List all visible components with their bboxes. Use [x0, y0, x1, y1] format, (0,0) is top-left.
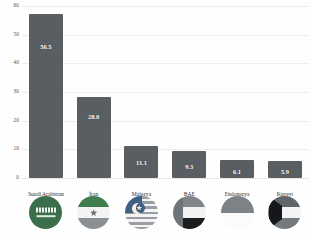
band-red [77, 218, 110, 229]
y-tick-label: 60 [14, 3, 19, 8]
x-axis-labels: Suudi Arabistan İran Malezya BAE Endonez… [22, 182, 309, 194]
shahada-script-mark [36, 207, 56, 212]
y-tick-label: 20 [14, 118, 19, 123]
y-tick-label: 10 [14, 147, 19, 152]
band-red [221, 196, 254, 213]
bar-slot-iran: 28.0 [70, 0, 118, 190]
bar-value-label: 5.9 [281, 169, 289, 175]
flag-malaysia-icon [125, 196, 158, 229]
flag-slot-malezya [118, 196, 166, 229]
bar-chart-figure: 60 50 40 30 20 10 0 56.5 2 [0, 0, 311, 233]
crescent-mark [132, 203, 143, 214]
bar-value-label: 9.3 [185, 164, 193, 170]
bar-iran[interactable] [77, 97, 111, 178]
flag-kuwait-icon [268, 196, 301, 229]
sword-mark [36, 216, 55, 218]
bar-slot-endonezya: 6.1 [213, 0, 261, 190]
bar-suudi-arabistan[interactable] [29, 14, 63, 178]
band-green [77, 196, 110, 207]
flag-row [22, 194, 309, 233]
band-black [183, 218, 206, 229]
y-tick-label: 50 [14, 32, 19, 37]
flag-slot-bae [165, 196, 213, 229]
y-tick-label: 30 [14, 89, 19, 94]
flag-iran-icon [77, 196, 110, 229]
flag-slot-endonezya [213, 196, 261, 229]
flag-slot-kuveyt [261, 196, 309, 229]
bar-value-label: 56.5 [40, 44, 51, 50]
band-white [183, 207, 206, 218]
flag-slot-suudi-arabistan [22, 196, 70, 229]
flag-indonesia-icon [221, 196, 254, 229]
band-green [183, 196, 206, 207]
hoist-red-mark [173, 196, 183, 229]
y-tick-label: 0 [16, 175, 19, 180]
band-white [221, 213, 254, 230]
bar-value-label: 6.1 [233, 169, 241, 175]
bar-value-label: 28.0 [88, 114, 99, 120]
bar-slot-suudi-arabistan: 56.5 [22, 0, 70, 190]
bar-series: 56.5 28.0 11.1 9.3 6.1 5.9 [22, 0, 309, 190]
y-tick-label: 40 [14, 61, 19, 66]
plot-area: 60 50 40 30 20 10 0 56.5 2 [0, 0, 311, 190]
y-axis: 60 50 40 30 20 10 0 [0, 0, 22, 190]
bar-value-label: 11.1 [136, 160, 147, 166]
flag-uae-icon [173, 196, 206, 229]
bar-slot-bae: 9.3 [165, 0, 213, 190]
bar-slot-malezya: 11.1 [118, 0, 166, 190]
bar-slot-kuveyt: 5.9 [261, 0, 309, 190]
flag-slot-iran [70, 196, 118, 229]
flag-saudi-arabia-icon [29, 196, 62, 229]
